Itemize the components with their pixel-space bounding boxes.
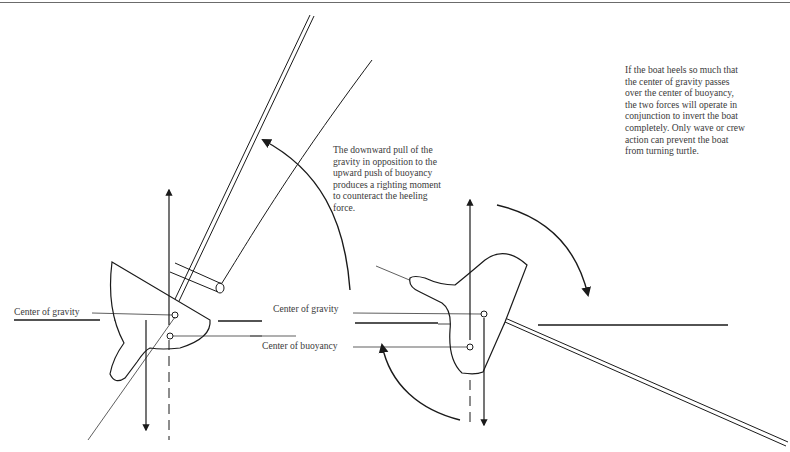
right-center-of-gravity <box>481 311 487 317</box>
left-boom <box>170 263 222 292</box>
caption-capsize: If the boat heels so much that the cente… <box>625 64 790 157</box>
label-right-center-of-gravity: Center of gravity <box>273 303 339 314</box>
left-center-of-buoyancy <box>167 333 173 339</box>
right-figure <box>250 200 788 446</box>
caption-righting-moment: The downward pull of the gravity in oppo… <box>333 144 483 214</box>
label-right-center-of-buoyancy: Center of buoyancy <box>262 340 338 351</box>
label-left-center-of-gravity: Center of gravity <box>14 306 80 317</box>
right-capsize-arrow-bottom <box>382 345 460 420</box>
left-figure <box>14 15 372 440</box>
left-mast <box>157 15 310 337</box>
right-center-of-buoyancy <box>467 344 473 350</box>
left-hull <box>110 262 210 381</box>
right-mast <box>505 318 788 442</box>
